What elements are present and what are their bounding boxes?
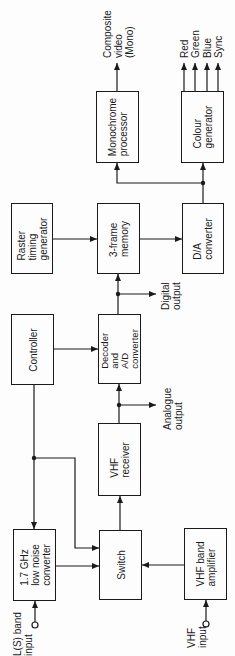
vhf-receiver-block: VHF receiver: [98, 423, 141, 496]
monochrome-processor-block: Monochrome processor: [96, 91, 139, 163]
switch-block: Switch: [99, 530, 142, 600]
ls-band-input-label: L(S) band input: [12, 612, 34, 656]
digital-output-label: Digital output: [160, 282, 182, 310]
frame-memory-label: 3-frame memory: [108, 220, 130, 256]
low-noise-converter-label: 1.7 GHz low noise converter: [18, 544, 51, 586]
low-noise-converter-block: 1.7 GHz low noise converter: [13, 529, 56, 601]
raster-timing-generator-block: Raster timing generator: [11, 203, 53, 274]
blue-label: Blue: [202, 38, 213, 58]
switch-label: Switch: [115, 550, 126, 579]
da-converter-block: D/A converter: [182, 203, 224, 274]
controller-label: Controller: [27, 328, 38, 371]
vhf-input-label: VHF input: [186, 626, 208, 648]
sync-label: Sync: [213, 36, 224, 58]
red-label: Red: [179, 40, 190, 58]
raster-timing-generator-label: Raster timing generator: [16, 217, 49, 260]
decoder-ad-label: Decoder and A/D converter: [100, 329, 140, 369]
controller-block: Controller: [11, 314, 54, 385]
analogue-output-label: Analogue output: [162, 388, 184, 430]
vhf-band-amplifier-label: VHF band amplifier: [195, 541, 217, 586]
vhf-receiver-label: VHF receiver: [109, 442, 131, 478]
da-converter-label: D/A converter: [192, 218, 214, 260]
monochrome-processor-label: Monochrome processor: [107, 98, 129, 156]
frame-memory-block: 3-frame memory: [97, 203, 140, 274]
colour-generator-block: Colour generator: [181, 91, 224, 163]
composite-video-label: Composite video (Mono): [102, 10, 135, 58]
vhf-band-amplifier-block: VHF band amplifier: [184, 528, 227, 600]
decoder-ad-block: Decoder and A/D converter: [98, 314, 141, 384]
colour-generator-label: Colour generator: [192, 106, 214, 149]
green-label: Green: [190, 30, 201, 58]
